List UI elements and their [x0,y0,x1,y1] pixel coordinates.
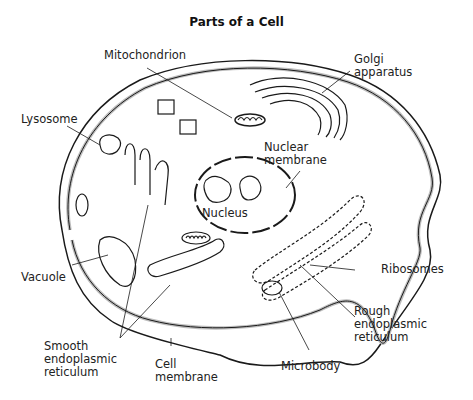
label-nuclear-membrane-2: membrane [264,154,327,167]
label-mitochondrion: Mitochondrion [104,49,186,62]
rough-er [253,196,364,283]
microbody-shape [262,281,282,295]
label-lysosome: Lysosome [21,113,78,126]
centriole-1 [158,100,174,114]
label-vacuole: Vacuole [21,271,66,284]
smooth-er [125,144,168,205]
label-ribosomes: Ribosomes [381,263,444,276]
mitochondrion-left [76,194,88,216]
label-nucleus: Nucleus [202,207,248,220]
label-smooth-er-3: reticulum [44,366,99,379]
label-rough-er-3: reticulum [354,331,409,344]
nucleolus-right [240,176,261,200]
label-cell-membrane-2: membrane [155,371,218,384]
vacuole-shape [99,237,136,286]
label-microbody: Microbody [281,360,340,373]
label-golgi-2: apparatus [354,66,412,79]
nuclear-membrane [195,157,295,233]
centriole-2 [180,120,196,134]
nucleolus-left [204,176,231,202]
lysosome-shape [100,135,121,154]
